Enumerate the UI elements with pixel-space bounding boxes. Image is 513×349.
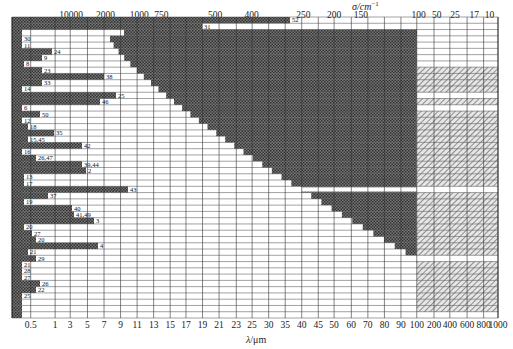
chart-plot: 52313011249823383314254665012183515,4542… — [0, 0, 513, 349]
bar-label: 16 — [24, 148, 31, 155]
bottom-tick-label: 9 — [118, 320, 123, 330]
bar-label: 31 — [204, 23, 211, 30]
bottom-tick-label: 23 — [232, 320, 242, 330]
bottom-tick-label: 60 — [347, 320, 357, 330]
bar-label: 33 — [44, 79, 51, 86]
bar-label: 52 — [292, 16, 299, 23]
bar-label: 24 — [54, 48, 61, 55]
bottom-tick-label: 1000 — [489, 320, 508, 330]
bottom-tick-label: 600 — [460, 320, 474, 330]
bar-label: 6 — [24, 104, 28, 111]
bottom-tick-label: 45 — [314, 320, 324, 330]
bottom-tick-label: 80 — [380, 320, 390, 330]
bar-label: 9 — [44, 54, 47, 61]
bar-label: 39,44 — [84, 161, 99, 168]
bar-label: 19 — [26, 198, 33, 205]
bar-label: 14 — [24, 85, 31, 92]
bottom-axis-title: λ/μm — [246, 334, 266, 345]
bar-label: 2 — [88, 167, 91, 174]
bottom-tick-label: 200 — [427, 320, 441, 330]
bottom-tick-label: 40 — [297, 320, 307, 330]
bar-label: 37 — [50, 192, 57, 199]
bar-label: 11 — [24, 42, 30, 49]
bar-label: 41,49 — [76, 211, 91, 218]
bottom-tick-label: 35 — [280, 320, 290, 330]
bar-label: 38 — [106, 73, 113, 80]
bottom-tick-label: 50 — [329, 320, 339, 330]
bar-label: 43 — [130, 186, 137, 193]
bottom-tick-label: 1 — [53, 320, 58, 330]
bar-label: 4 — [100, 242, 104, 249]
bottom-tick-label: 90 — [396, 320, 406, 330]
bar-label: 20 — [38, 236, 45, 243]
bottom-tick-label: 21 — [214, 320, 224, 330]
bottom-tick-label: 100 — [410, 320, 424, 330]
bottom-tick-label: 7 — [102, 320, 107, 330]
bottom-tick-label: 19 — [198, 320, 208, 330]
bottom-tick-label: 30 — [264, 320, 274, 330]
bottom-tick-label: 3 — [68, 320, 73, 330]
bar-label: 42 — [84, 142, 91, 149]
bottom-tick-label: 15 — [165, 320, 175, 330]
bar-label: 18 — [30, 123, 37, 130]
bar-label: 35 — [56, 129, 63, 136]
bar-label: 23 — [44, 67, 51, 74]
bottom-tick-label: 5 — [85, 320, 90, 330]
bar-label: 20 — [26, 223, 33, 230]
bottom-tick-label: 25 — [247, 320, 257, 330]
bar-label: 50 — [42, 111, 49, 118]
bar-label: 15,45 — [30, 136, 45, 143]
bar-label: 8 — [26, 60, 29, 67]
bar-label: 27 — [24, 274, 31, 281]
bar-label: 3 — [96, 217, 99, 224]
bottom-tick-label: 0.5 — [25, 320, 37, 330]
bar-label: 46 — [102, 98, 109, 105]
bar-label: 25 — [24, 292, 31, 299]
bottom-tick-label: 17 — [181, 320, 191, 330]
bar-label: 25 — [118, 92, 125, 99]
bar-label: 29 — [38, 255, 45, 262]
bar-label: 17 — [26, 180, 33, 187]
bottom-tick-label: 13 — [149, 320, 159, 330]
bottom-tick-label: 70 — [363, 320, 373, 330]
bar-label: 21 — [30, 248, 37, 255]
bottom-tick-label: 400 — [443, 320, 457, 330]
bar-label: 22 — [38, 286, 45, 293]
bar-label: 26,47 — [38, 154, 53, 161]
bottom-tick-label: 11 — [133, 320, 142, 330]
